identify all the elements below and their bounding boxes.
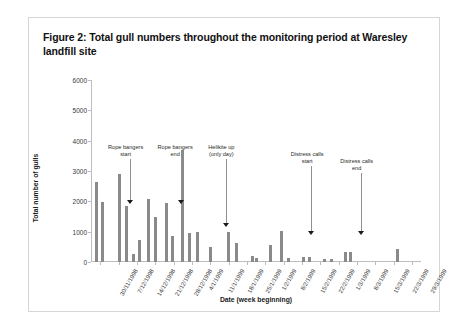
annotation-leader-line bbox=[130, 159, 131, 201]
x-tick-mark bbox=[137, 262, 138, 265]
bar bbox=[349, 252, 352, 262]
y-tick-label: 1000 bbox=[73, 228, 87, 235]
bar bbox=[251, 256, 254, 262]
y-tick-label: 2000 bbox=[73, 198, 87, 205]
x-tick-mark bbox=[119, 262, 120, 265]
bar bbox=[330, 259, 333, 262]
y-tick-mark bbox=[88, 141, 91, 142]
annotation-label-helikite-up: Helikite up (only day) bbox=[199, 144, 243, 158]
x-tick-mark bbox=[174, 262, 175, 265]
x-tick-label: 22/2/1999 bbox=[338, 268, 357, 294]
x-tick-label: 22/3/1999 bbox=[411, 268, 430, 294]
annotation-label-distress-calls-end: Distress calls end bbox=[335, 158, 379, 172]
bar bbox=[95, 182, 98, 262]
bar bbox=[188, 233, 191, 262]
x-tick-label: 15/3/1999 bbox=[393, 268, 412, 294]
bar bbox=[154, 217, 157, 262]
bar bbox=[171, 236, 174, 262]
x-tick-mark bbox=[339, 262, 340, 265]
bar bbox=[235, 243, 238, 262]
x-tick-mark bbox=[229, 262, 230, 265]
bar bbox=[269, 245, 272, 262]
x-axis-title: Date (week beginning) bbox=[91, 296, 421, 303]
plot-inner: 0100020003000400050006000 30/11/19987/12… bbox=[91, 80, 421, 262]
x-tick-label: 21/12/1998 bbox=[174, 268, 194, 297]
x-tick-label: 8/3/1999 bbox=[373, 268, 390, 291]
x-tick-label: 29/3/1999 bbox=[429, 268, 448, 294]
y-tick-label: 3000 bbox=[73, 168, 87, 175]
x-tick-label: 1/2/1999 bbox=[281, 268, 298, 291]
bar bbox=[287, 258, 290, 262]
x-tick-mark bbox=[265, 262, 266, 265]
y-tick-label: 5000 bbox=[73, 107, 87, 114]
bar bbox=[147, 199, 150, 262]
bar bbox=[344, 252, 347, 262]
x-tick-label: 14/12/1998 bbox=[156, 268, 176, 297]
chart-plot-area: Total number of gulls 010002000300040005… bbox=[43, 70, 429, 306]
x-tick-mark bbox=[247, 262, 248, 265]
x-tick-label: 15/2/1999 bbox=[319, 268, 338, 294]
x-tick-mark bbox=[394, 262, 395, 265]
x-tick-mark bbox=[284, 262, 285, 265]
x-tick-label: 30/11/1998 bbox=[119, 268, 139, 297]
y-tick-mark bbox=[88, 80, 91, 81]
annotation-label-distress-calls-start: Distress calls start bbox=[285, 151, 329, 165]
figure-card: Figure 2: Total gull numbers throughout … bbox=[28, 17, 440, 312]
annotation-leader-line bbox=[311, 166, 312, 231]
bar bbox=[209, 247, 212, 262]
x-tick-mark bbox=[375, 262, 376, 265]
bar bbox=[165, 203, 168, 262]
x-tick-label: 8/2/1999 bbox=[299, 268, 316, 291]
y-tick-label: 6000 bbox=[73, 77, 87, 84]
annotation-arrowhead-icon bbox=[178, 200, 184, 204]
bar bbox=[101, 202, 104, 262]
x-tick-label: 7/12/1998 bbox=[136, 268, 155, 294]
y-axis-line bbox=[91, 80, 92, 262]
bar bbox=[125, 206, 128, 262]
y-axis-title: Total number of gulls bbox=[32, 154, 39, 223]
bar bbox=[255, 258, 258, 262]
annotation-arrowhead-icon bbox=[223, 223, 229, 227]
bar bbox=[196, 232, 199, 262]
x-tick-mark bbox=[357, 262, 358, 265]
x-tick-mark bbox=[320, 262, 321, 265]
x-tick-mark bbox=[100, 262, 101, 265]
x-tick-label: 25/1/1999 bbox=[264, 268, 283, 294]
annotation-arrowhead-icon bbox=[127, 200, 133, 204]
bar bbox=[280, 231, 283, 262]
x-tick-mark bbox=[192, 262, 193, 265]
x-tick-label: 1/3/1999 bbox=[354, 268, 371, 291]
y-tick-label: 4000 bbox=[73, 137, 87, 144]
y-tick-mark bbox=[88, 171, 91, 172]
bar bbox=[396, 249, 399, 262]
annotation-leader-line bbox=[181, 159, 182, 201]
y-tick-mark bbox=[88, 262, 91, 263]
bar bbox=[308, 257, 311, 262]
bar bbox=[227, 232, 230, 262]
annotation-label-rope-bangers-start: Rope bangers start bbox=[104, 144, 148, 158]
y-tick-mark bbox=[88, 232, 91, 233]
bar bbox=[138, 240, 141, 262]
annotation-arrowhead-icon bbox=[308, 231, 314, 235]
bar bbox=[118, 174, 121, 262]
x-tick-mark bbox=[302, 262, 303, 265]
bar bbox=[323, 259, 326, 262]
bar bbox=[132, 254, 135, 262]
annotation-arrowhead-icon bbox=[358, 231, 364, 235]
x-tick-label: 18/1/1999 bbox=[246, 268, 265, 294]
figure-title: Figure 2: Total gull numbers throughout … bbox=[43, 30, 425, 58]
y-tick-label: 0 bbox=[83, 259, 87, 266]
x-tick-mark bbox=[155, 262, 156, 265]
annotation-label-rope-bangers-end: Rope bangers end bbox=[153, 144, 197, 158]
y-tick-mark bbox=[88, 201, 91, 202]
x-tick-label: 11/1/1999 bbox=[227, 268, 245, 294]
annotation-leader-line bbox=[361, 173, 362, 231]
y-tick-mark bbox=[88, 110, 91, 111]
x-tick-mark bbox=[210, 262, 211, 265]
annotation-leader-line bbox=[226, 159, 227, 224]
x-tick-mark bbox=[412, 262, 413, 265]
